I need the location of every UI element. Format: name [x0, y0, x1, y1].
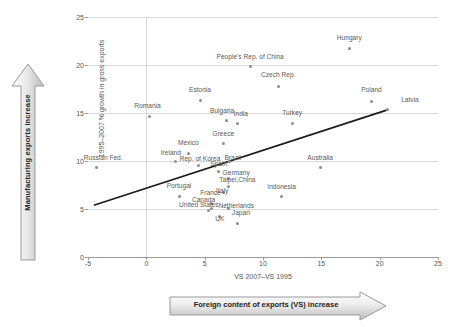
scatter-point-label: Czech Rep. — [261, 71, 295, 78]
manufacturing-exports-arrow-label: Manufacturing exports increase — [23, 73, 32, 233]
scatter-point-label: Ireland — [161, 149, 181, 156]
scatter-point — [370, 100, 373, 103]
scatter-point — [178, 195, 181, 198]
y-axis-title: 1995–2007 % growth in gross exports — [98, 24, 105, 174]
chart-figure: Manufacturing exports increase Foreign c… — [0, 0, 449, 327]
scatter-point-label: Japan — [232, 209, 250, 216]
y-tick-label: 5 — [80, 206, 84, 213]
scatter-point — [277, 85, 280, 88]
scatter-point-label: Taipei,China — [219, 176, 255, 183]
foreign-content-arrow-label: Foreign content of exports (VS) increase — [176, 300, 356, 309]
x-tick-label: 5 — [203, 260, 207, 267]
x-tick-mark — [88, 257, 89, 260]
scatter-point — [291, 122, 294, 125]
scatter-point-label: Latvia — [401, 96, 419, 103]
scatter-point-label: Portugal — [167, 182, 192, 189]
scatter-point-label: Hungary — [337, 34, 362, 41]
y-tick-label: 25 — [76, 14, 84, 21]
x-tick-label: 20 — [376, 260, 384, 267]
x-tick-label: 25 — [434, 260, 442, 267]
x-tick-mark — [263, 257, 264, 260]
scatter-point-label: Bulgaria — [210, 107, 234, 114]
x-tick-mark — [438, 257, 439, 260]
scatter-point-label: Turkey — [282, 109, 302, 116]
x-tick-mark — [146, 257, 147, 260]
scatter-point-label: Romania — [134, 102, 160, 109]
scatter-point-label: UK — [215, 215, 224, 222]
x-tick-mark — [380, 257, 381, 260]
scatter-point-label: Poland — [361, 86, 382, 93]
scatter-point-label: People's Rep. of China — [217, 53, 284, 60]
x-axis-title: VS 2007–VS 1995 — [88, 273, 438, 280]
scatter-point — [236, 122, 239, 125]
foreign-content-arrow: Foreign content of exports (VS) increase — [168, 291, 388, 321]
y-tick-label: 15 — [76, 110, 84, 117]
scatter-plot: 0510152025-50510152025 HungaryPeople's R… — [88, 17, 438, 257]
x-tick-label: 0 — [144, 260, 148, 267]
x-tick-label: 15 — [317, 260, 325, 267]
scatter-point — [236, 222, 239, 225]
scatter-point-label: Australia — [307, 154, 333, 161]
scatter-point-label: Netherlands — [218, 202, 254, 209]
scatter-point-label: Indonesia — [267, 183, 296, 190]
scatter-point-label: Greece — [213, 130, 235, 137]
x-tick-mark — [205, 257, 206, 260]
scatter-point — [199, 99, 202, 102]
manufacturing-exports-arrow: Manufacturing exports increase — [10, 62, 46, 262]
scatter-point-label: India — [234, 110, 248, 117]
x-tick-label: -5 — [85, 260, 91, 267]
scatter-point-label: Estonia — [189, 86, 211, 93]
y-tick-label: 20 — [76, 62, 84, 69]
scatter-point-label: Spain — [210, 160, 227, 167]
scatter-point-label: United States — [179, 201, 219, 208]
y-tick-label: 0 — [80, 254, 84, 261]
x-tick-label: 10 — [259, 260, 267, 267]
x-tick-mark — [321, 257, 322, 260]
scatter-point-label: Mexico — [178, 139, 199, 146]
scatter-point — [319, 166, 322, 169]
